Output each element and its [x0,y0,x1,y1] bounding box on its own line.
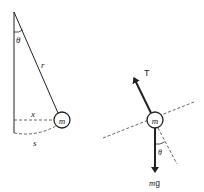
r-label: r [41,60,45,70]
weight-label: mg [149,178,160,188]
theta-angle-arc-right [155,142,165,144]
mass-label: m [59,116,66,126]
s-arc-length [14,126,56,134]
tension-arrow [134,78,151,113]
mass-label-right: m [152,116,159,126]
radial-dashed-line [158,128,177,164]
x-label: x [30,109,35,119]
theta-label: θ [16,35,21,45]
s-label: s [33,138,37,148]
pendulum-string [14,12,58,113]
pendulum-geometry: θ r x s m [14,12,70,148]
pendulum-diagram: θ r x s m T θ m mg [0,0,204,192]
free-body-diagram: T θ m mg [103,68,194,188]
theta-label-right: θ [158,148,162,157]
theta-angle-arc [14,30,23,32]
tension-label: T [144,68,150,78]
